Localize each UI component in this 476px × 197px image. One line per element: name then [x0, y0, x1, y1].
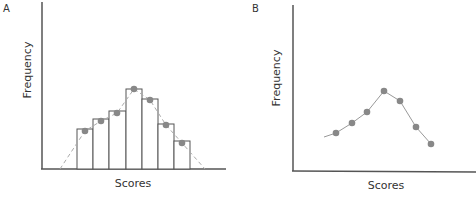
panel-a-y-label: Frequency — [21, 41, 34, 98]
panel-b-label: B — [252, 3, 259, 14]
data-point — [428, 141, 435, 148]
panel-a-x-label: Scores — [115, 177, 152, 190]
data-point — [349, 120, 356, 127]
panel-a: A Frequency Scores — [3, 2, 226, 190]
data-point — [131, 86, 138, 93]
bar — [77, 129, 93, 169]
data-point — [179, 140, 186, 147]
panel-b-x-axis — [292, 171, 476, 172]
data-point — [82, 128, 89, 135]
data-point — [364, 109, 371, 116]
panel-b: B Frequency Scores — [252, 3, 476, 192]
data-point — [114, 110, 121, 117]
data-point — [381, 88, 388, 95]
figure: A Frequency Scores B — [0, 0, 476, 197]
data-point — [98, 118, 105, 125]
histogram-bars — [77, 89, 190, 169]
bar — [93, 119, 109, 169]
data-point — [333, 130, 340, 137]
panel-b-x-label: Scores — [368, 179, 405, 192]
data-point — [397, 98, 404, 105]
panel-a-label: A — [3, 3, 10, 14]
data-point — [163, 122, 170, 129]
bar — [126, 89, 142, 169]
polygon-points — [333, 88, 435, 148]
bar — [109, 111, 126, 169]
frequency-polygon — [324, 91, 431, 144]
panel-b-y-label: Frequency — [270, 49, 283, 106]
data-point — [147, 97, 154, 104]
data-point — [413, 124, 420, 131]
